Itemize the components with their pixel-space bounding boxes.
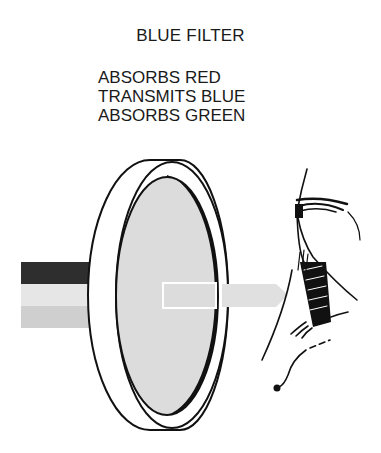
green-light-band [21,306,91,328]
transmitted-blue-beam [222,284,288,307]
eye-icon [262,169,360,392]
filter-illustration [0,0,381,453]
transmitted-beam-inside [163,283,216,308]
red-light-band [21,262,91,284]
blue-light-band [21,284,91,306]
incoming-light-bands [21,262,91,328]
